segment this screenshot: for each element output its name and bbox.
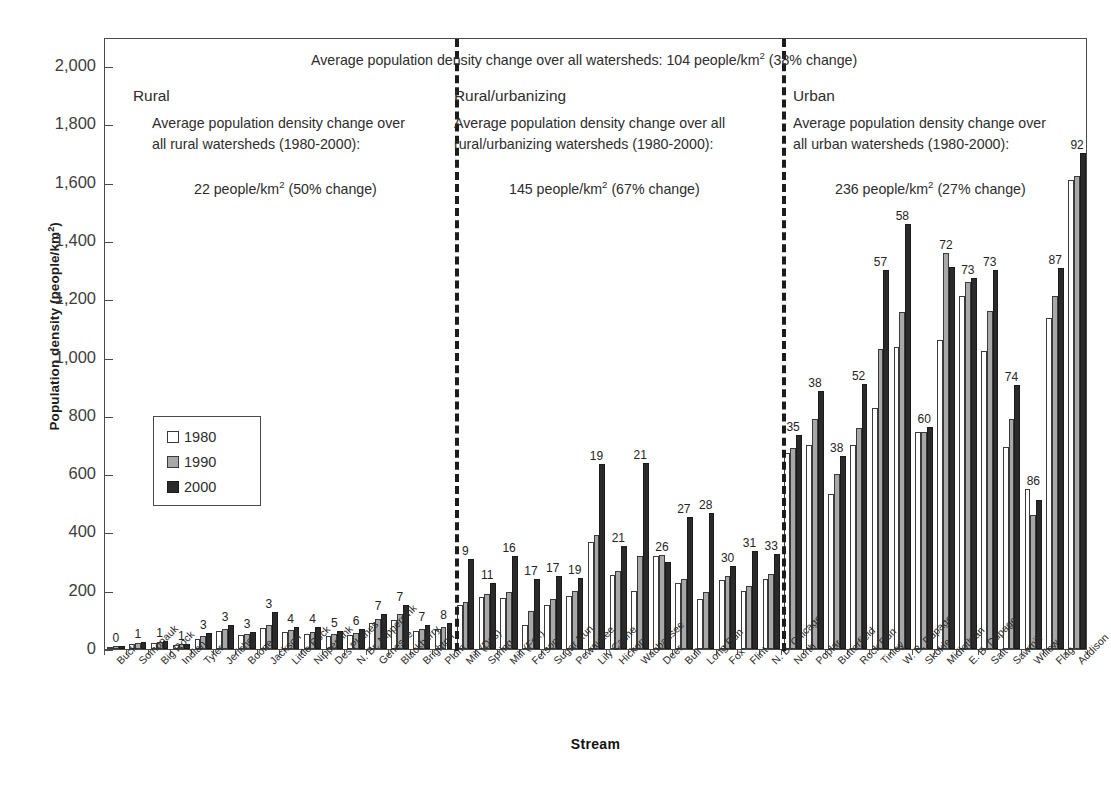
x-tick-label: Flint [747, 644, 770, 667]
x-axis: BuckSomonaukBig RockIndianTylerJerichoBo… [0, 0, 1111, 790]
x-tick-label: Buck [114, 641, 139, 666]
x-tick-label: Bull [682, 645, 703, 666]
population-density-chart: Population density (people/km2) 01113333… [0, 0, 1111, 790]
x-tick-mark [104, 650, 105, 655]
x-axis-title: Stream [104, 736, 1087, 752]
x-tick-label: Addison [1075, 631, 1111, 667]
